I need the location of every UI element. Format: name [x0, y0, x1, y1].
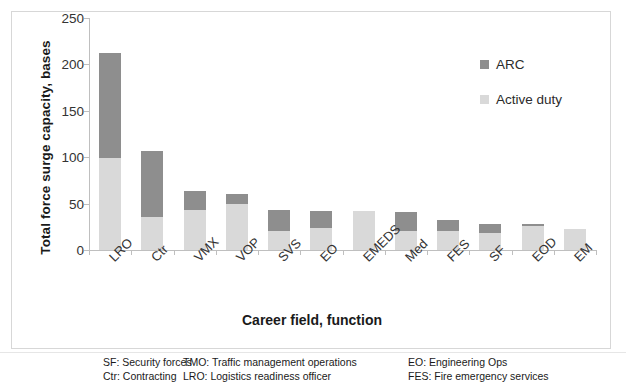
- key-item: FES: Fire emergency services: [408, 369, 549, 383]
- key-column-3: EO: Engineering Ops FES: Fire emergency …: [408, 355, 549, 383]
- y-tick-mark: [84, 111, 89, 112]
- y-axis-line: [89, 18, 90, 251]
- key-item: LRO: Logistics readiness officer: [183, 369, 357, 383]
- bar-segment-arc[interactable]: [99, 53, 121, 158]
- bar-segment-arc[interactable]: [226, 194, 248, 203]
- chart-legend: ARC Active duty: [480, 57, 562, 127]
- key-item: SF: Security forces: [103, 355, 192, 369]
- chart-page: Total force surge capacity, bases 050100…: [0, 0, 626, 384]
- bar-lro[interactable]: [99, 53, 121, 250]
- y-tick-label: 50: [69, 196, 84, 211]
- legend-label-active-duty: Active duty: [496, 92, 562, 107]
- legend-label-arc: ARC: [496, 57, 525, 72]
- chart-frame: Total force surge capacity, bases 050100…: [11, 11, 611, 349]
- y-tick-label: 150: [61, 103, 84, 118]
- bar-segment-arc[interactable]: [479, 224, 501, 233]
- legend-entry-arc: ARC: [480, 57, 562, 72]
- x-axis-title: Career field, function: [12, 312, 612, 328]
- plot-area: [89, 18, 596, 251]
- y-tick-label: 0: [76, 243, 84, 258]
- x-axis-tick-labels: LROCtrVMXVOPSVSEOEMEDSMedFESSFEODEM: [89, 254, 596, 314]
- legend-swatch-arc: [480, 60, 489, 69]
- y-tick-mark: [84, 204, 89, 205]
- bar-segment-arc[interactable]: [310, 211, 332, 228]
- y-axis-tick-labels: 050100150200250: [40, 18, 84, 251]
- key-item: TMO: Traffic management operations: [183, 355, 357, 369]
- bar-segment-active-duty[interactable]: [99, 158, 121, 250]
- legend-swatch-active-duty: [480, 95, 489, 104]
- bar-segment-arc[interactable]: [437, 220, 459, 231]
- legend-entry-active-duty: Active duty: [480, 92, 562, 107]
- bar-segment-arc[interactable]: [184, 191, 206, 210]
- y-tick-label: 250: [61, 11, 84, 26]
- key-item: Ctr: Contracting: [103, 369, 192, 383]
- bar-ctr[interactable]: [141, 151, 163, 250]
- key-divider: [0, 352, 626, 353]
- x-tick-mark: [596, 250, 597, 255]
- key-column-2: TMO: Traffic management operations LRO: …: [183, 355, 357, 383]
- bar-segment-arc[interactable]: [141, 151, 163, 217]
- y-tick-mark: [84, 18, 89, 19]
- key-column-1: SF: Security forces Ctr: Contracting: [103, 355, 192, 383]
- y-tick-label: 200: [61, 57, 84, 72]
- bar-segment-arc[interactable]: [268, 210, 290, 230]
- y-tick-mark: [84, 157, 89, 158]
- abbreviation-key: SF: Security forces Ctr: Contracting TMO…: [0, 355, 626, 384]
- bar-segment-arc[interactable]: [522, 224, 544, 226]
- key-item: EO: Engineering Ops: [408, 355, 549, 369]
- y-tick-mark: [84, 64, 89, 65]
- y-tick-label: 100: [61, 150, 84, 165]
